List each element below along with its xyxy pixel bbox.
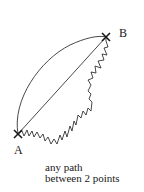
point-b-label: B <box>119 27 127 39</box>
curved-arc-path <box>17 36 106 134</box>
zigzag-path <box>18 37 108 144</box>
caption-line-2: between 2 points <box>45 173 120 184</box>
point-a-label: A <box>14 144 23 156</box>
straight-line-path <box>18 37 106 134</box>
point-a-marker-icon <box>14 130 22 138</box>
diagram-caption: any path between 2 points <box>45 162 120 184</box>
